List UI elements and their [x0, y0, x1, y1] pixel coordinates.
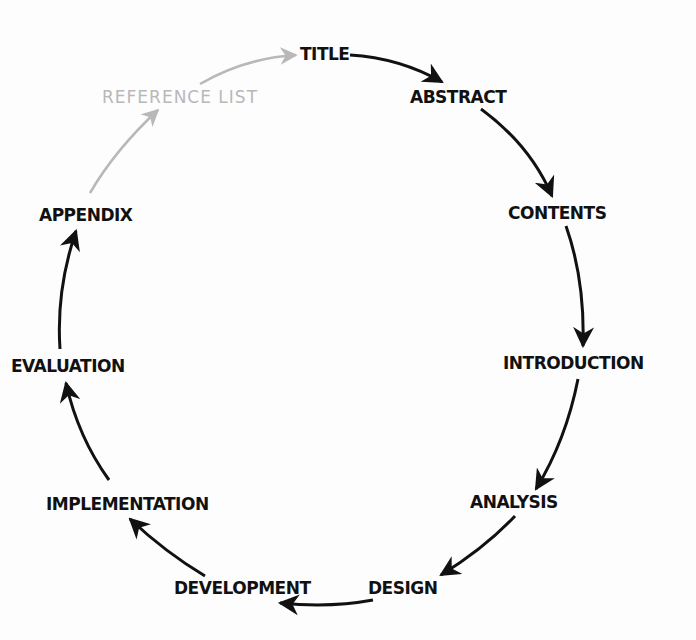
- arrow-introduction-to-analysis: [536, 379, 578, 489]
- report-structure-cycle-diagram: TITLE ABSTRACT CONTENTS INTRODUCTION ANA…: [0, 0, 696, 640]
- arrow-title-to-abstract: [350, 55, 442, 82]
- node-appendix: APPENDIX: [39, 205, 132, 225]
- arrow-evaluation-to-appendix: [59, 231, 76, 349]
- node-title: TITLE: [300, 44, 349, 64]
- arrow-reference-list-to-title: [200, 55, 296, 84]
- arrow-implementation-to-evaluation: [66, 383, 109, 480]
- arrow-abstract-to-contents: [481, 109, 552, 196]
- node-implementation: IMPLEMENTATION: [46, 494, 209, 514]
- node-contents: CONTENTS: [508, 203, 606, 223]
- node-design: DESIGN: [368, 578, 437, 598]
- arrow-development-to-implementation: [130, 519, 205, 576]
- arrow-design-to-development: [280, 600, 373, 605]
- arrow-contents-to-introduction: [566, 226, 583, 346]
- arrow-analysis-to-design: [441, 516, 515, 575]
- arrow-appendix-to-reference-list: [90, 110, 158, 193]
- node-reference-list: REFERENCE LIST: [102, 87, 258, 107]
- node-evaluation: EVALUATION: [11, 356, 125, 376]
- node-development: DEVELOPMENT: [174, 578, 311, 598]
- node-introduction: INTRODUCTION: [503, 353, 644, 373]
- node-analysis: ANALYSIS: [470, 492, 558, 512]
- node-abstract: ABSTRACT: [410, 87, 506, 107]
